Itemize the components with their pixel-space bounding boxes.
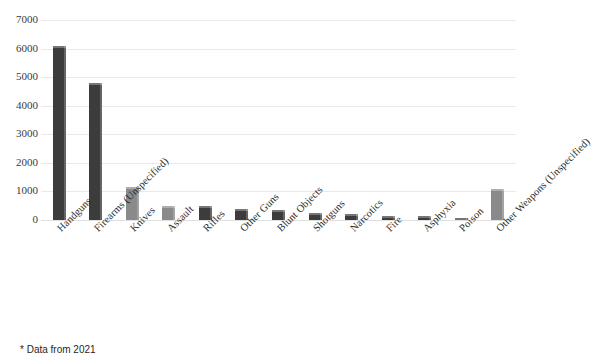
gridline bbox=[41, 191, 516, 192]
bar bbox=[491, 189, 504, 220]
x-axis-labels: HandgunsFirearms (Unspecified)KnivesAssa… bbox=[0, 0, 537, 130]
gridline bbox=[41, 163, 516, 164]
gridline bbox=[41, 134, 516, 135]
y-axis-tick-label: 0 bbox=[0, 214, 38, 225]
footnote-text: * Data from 2021 bbox=[20, 344, 96, 355]
y-axis-tick-label: 2000 bbox=[0, 157, 38, 168]
y-axis-tick-label: 1000 bbox=[0, 185, 38, 196]
bar-chart: 70006000500040003000200010000 HandgunsFi… bbox=[0, 0, 537, 332]
